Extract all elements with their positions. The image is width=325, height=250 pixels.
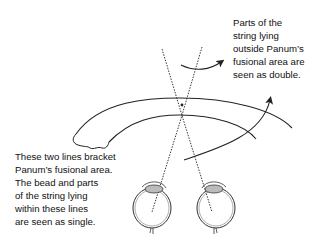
annotation-line: These two lines bracket — [15, 150, 116, 163]
right-eye — [197, 182, 235, 234]
bead-intersection — [181, 104, 184, 107]
annotation-line: outside Panum’s — [233, 42, 304, 55]
annotation-line: seen as double. — [233, 68, 304, 81]
inside-area-annotation: These two lines bracket Panum’s fusional… — [15, 150, 116, 228]
outer-arc — [76, 98, 292, 134]
annotation-line: within these lines — [15, 202, 116, 215]
inner-arc — [109, 115, 256, 142]
annotation-line: fusional area are — [233, 55, 304, 68]
outside-area-annotation: Parts of the string lying outside Panum’… — [233, 16, 304, 81]
annotation-line: Panum’s fusional area. — [15, 163, 116, 176]
annotation-line: The bead and parts — [15, 176, 116, 189]
wavy-end — [73, 134, 109, 149]
arrow-upper — [181, 62, 221, 69]
annotation-line: string lying — [233, 29, 304, 42]
annotation-line: are seen as single. — [15, 215, 116, 228]
annotation-line: Parts of the — [233, 16, 304, 29]
annotation-line: of the string lying — [15, 189, 116, 202]
left-eye — [133, 182, 171, 234]
left-sight-line — [162, 49, 212, 212]
